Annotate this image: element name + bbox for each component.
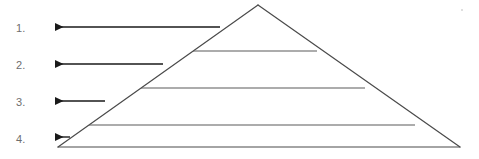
diagram-screenshot: 1. 2. 3. 4.	[0, 0, 479, 159]
tier-label-2: 2.	[16, 59, 26, 71]
tier-label-4: 4.	[16, 133, 26, 145]
tier-number-labels: 1. 2. 3. 4.	[0, 0, 479, 159]
tier-label-1: 1.	[16, 22, 26, 34]
tier-label-3: 3.	[16, 96, 26, 108]
